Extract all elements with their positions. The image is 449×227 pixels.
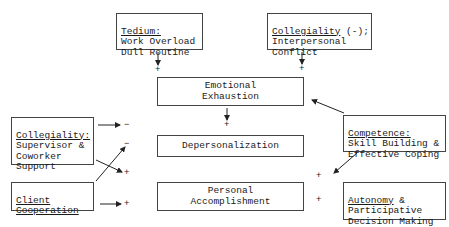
node-collegiality-conflict-heading: Collegiality [272,26,340,37]
node-collegiality-support-line-1: Supervisor & [16,141,89,152]
sign-autonomy-accomplishment: + [316,196,321,205]
sign-tedium-exhaustion: + [155,66,160,75]
node-personal-accomplishment-line-2: Accomplishment [162,197,299,208]
arrow-client-to-depersonalization [96,147,125,181]
node-collegiality-conflict: Collegiality (-); InterpersonalConflict [267,13,372,50]
node-collegiality-conflict-line-2: Conflict [272,48,367,59]
node-personal-accomplishment: PersonalAccomplishment [157,182,304,211]
node-autonomy-line-2: Decision Making [348,217,441,227]
node-tedium-line-2: Dull Routine [121,48,198,59]
node-autonomy-line-1: Participative [348,206,441,217]
sign-competence-accomplishment: + [316,172,321,181]
arrow-competence-to-exhaustion [312,100,344,113]
sign-conflict-exhaustion: + [299,65,304,74]
node-client-cooperation: ClientCooperation [11,182,94,211]
node-collegiality-support-heading: Collegiality: [16,130,90,141]
node-autonomy-heading: Autonomy [348,195,394,206]
node-tedium: Tedium: Work OverloadDull Routine [116,13,203,50]
node-depersonalization: Depersonalization [157,135,304,157]
sign-client-accomplishment: + [124,200,129,209]
node-competence-heading: Competence: [348,128,411,139]
sign-exhaustion-depersonalization: + [224,121,229,130]
node-personal-accomplishment-line-1: Personal [162,186,299,197]
node-competence-line-2: Effective Coping [348,150,441,161]
node-emotional-exhaustion: EmotionalExhaustion [157,77,304,106]
sign-client-depersonalization: − [124,140,129,149]
node-autonomy: Autonomy & ParticipativeDecision Making [343,182,446,220]
sign-support-accomplishment: + [124,169,129,178]
sign-support-depersonalization: − [124,121,129,130]
node-emotional-exhaustion-line-2: Exhaustion [162,92,299,103]
node-client-cooperation-line-2: Cooperation [16,206,89,217]
node-collegiality-support: Collegiality: Supervisor &CoworkerSuppor… [11,117,94,165]
node-collegiality-support-line-3: Support [16,162,89,173]
node-depersonalization-label: Depersonalization [162,141,299,152]
node-tedium-heading: Tedium: [121,26,161,37]
node-collegiality-conflict-suffix: (-); [340,26,369,37]
node-tedium-line-1: Work Overload [121,37,198,48]
node-emotional-exhaustion-line-1: Emotional [162,81,299,92]
node-competence: Competence: Skill Building &Effective Co… [343,115,446,152]
node-autonomy-suffix: & [394,195,405,206]
node-collegiality-conflict-line-1: Interpersonal [272,37,367,48]
node-competence-line-1: Skill Building & [348,139,441,150]
